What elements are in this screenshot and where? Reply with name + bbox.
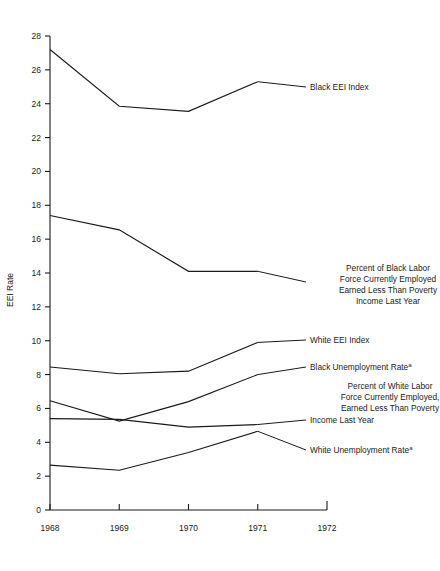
- series-leader-line-0: [258, 82, 306, 87]
- series-label-white-unemployment-rate: White Unemployment Ratea: [310, 445, 413, 455]
- series-line-4: [50, 419, 258, 427]
- y-axis-tick-label: 18: [32, 200, 42, 210]
- y-axis-tick-label: 16: [32, 234, 42, 244]
- series-label-white-eei-index: White EEI Index: [310, 335, 370, 345]
- x-axis-ticks: 19681969197019711972: [41, 501, 337, 533]
- series-leader-line-3: [258, 367, 306, 375]
- y-axis-tick-label: 14: [32, 268, 42, 278]
- series-lines-group: [50, 50, 258, 471]
- y-axis-tick-label: 0: [36, 505, 41, 515]
- y-axis-tick-label: 10: [32, 336, 42, 346]
- series-line-3: [50, 375, 258, 422]
- chart-container: 0246810121416182022242628 19681969197019…: [0, 0, 440, 571]
- white-unemployment-superscript: a: [409, 445, 413, 451]
- y-axis-title: EEI Rate: [5, 273, 15, 307]
- y-axis-tick-label: 2: [36, 471, 41, 481]
- y-axis-tick-label: 22: [32, 133, 42, 143]
- y-axis-tick-label: 28: [32, 31, 42, 41]
- series-leader-line-1: [258, 271, 306, 282]
- black-unemployment-superscript: a: [408, 362, 412, 368]
- line-chart-plot: 0246810121416182022242628 19681969197019…: [0, 0, 440, 571]
- x-axis-tick-label: 1968: [41, 523, 60, 533]
- y-axis-tick-label: 4: [36, 437, 41, 447]
- y-axis-tick-label: 8: [36, 370, 41, 380]
- series-leader-line-4: [258, 420, 306, 425]
- series-label-white-poverty-line4: Income Last Year: [310, 415, 374, 425]
- series-label-black-poverty-line3: Earned Less Than Poverty: [339, 285, 438, 295]
- y-axis-tick-label: 26: [32, 65, 42, 75]
- series-leader-line-2: [258, 340, 306, 342]
- series-label-white-poverty-line2: Force Currently Employed,: [341, 392, 440, 402]
- x-axis-tick-label: 1971: [248, 523, 267, 533]
- x-axis-tick-label: 1972: [318, 523, 337, 533]
- x-axis-tick-label: 1970: [179, 523, 198, 533]
- series-leader-line-5: [258, 431, 306, 450]
- series-line-0: [50, 50, 258, 112]
- y-axis-ticks: 0246810121416182022242628: [32, 31, 50, 515]
- y-axis-tick-label: 24: [32, 99, 42, 109]
- series-label-black-poverty-line1: Percent of Black Labor: [346, 263, 430, 273]
- y-axis-tick-label: 20: [32, 166, 42, 176]
- series-label-white-poverty-line3: Earned Less Than Poverty: [341, 403, 440, 413]
- series-label-white-poverty-line1: Percent of White Labor: [348, 381, 433, 391]
- y-axis-tick-label: 12: [32, 302, 42, 312]
- series-line-5: [50, 431, 258, 470]
- series-label-black-poverty-line2: Force Currently Employed: [340, 274, 437, 284]
- black-unemployment-text: Black Unemployment Rate: [310, 362, 409, 372]
- series-label-black-unemployment-rate: Black Unemployment Ratea: [310, 362, 412, 372]
- series-line-1: [50, 215, 258, 271]
- white-unemployment-text: White Unemployment Rate: [310, 445, 410, 455]
- series-label-black-eei-index: Black EEI Index: [310, 82, 369, 92]
- series-label-black-poverty-line4: Income Last Year: [356, 296, 420, 306]
- leader-lines-group: [258, 82, 306, 450]
- series-line-2: [50, 342, 258, 373]
- y-axis-tick-label: 6: [36, 403, 41, 413]
- x-axis-tick-label: 1969: [110, 523, 129, 533]
